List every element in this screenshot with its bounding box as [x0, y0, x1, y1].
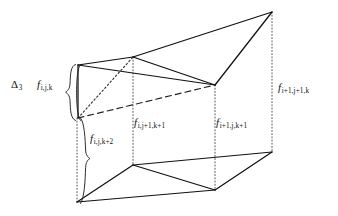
figure-container: Δ3 fi,j,k fi,j,k+2 fi,j+1,k+1 fi+1,j,k+1… — [0, 0, 338, 216]
label-f-iplus1-jplus1-k: fi+1,j+1,k — [278, 82, 309, 95]
edge-bottomright-bottominner — [215, 152, 272, 190]
edge-topleft-rightmid — [78, 65, 215, 85]
top-face-edges — [78, 12, 272, 85]
edge-hidden-leftlower-rightmid — [78, 85, 215, 118]
prism-diagram — [0, 0, 338, 216]
edge-topmid-rightmid — [133, 57, 215, 85]
dotted-vertical-guides — [77, 12, 272, 202]
edge-bottommid-bottominner — [133, 165, 215, 190]
edge-apex-rightmid — [215, 12, 272, 85]
label-f-iplus1-j-kplus1: fi+1,j,k+1 — [216, 117, 247, 130]
brace-fijk2-span — [81, 118, 91, 204]
label-delta-3: Δ3 — [11, 79, 22, 92]
label-f-i-jplus1-kplus1: fi,j+1,k+1 — [134, 117, 165, 130]
delta-subscript: 3 — [18, 84, 22, 92]
edge-topmid-apex — [133, 12, 272, 57]
f-subscript: i,j,k+2 — [93, 138, 113, 146]
brace-upper-path — [66, 65, 76, 121]
edge-bottomleft-bottominner — [77, 190, 215, 202]
edge-bottommid-bottomright — [133, 152, 272, 165]
f-subscript: i,j+1,k+1 — [137, 122, 165, 130]
bottom-face-edges — [77, 152, 272, 202]
label-f-i-j-k: fi,j,k — [37, 79, 52, 92]
edge-topleft-topmid — [78, 57, 133, 65]
f-subscript: i,j,k — [40, 84, 52, 92]
f-subscript: i+1,j,k+1 — [219, 122, 247, 130]
hidden-edges-dashed — [78, 85, 215, 118]
brace-lower-path — [81, 118, 91, 204]
f-subscript: i+1,j+1,k — [281, 87, 309, 95]
label-f-i-j-kplus2: fi,j,k+2 — [90, 133, 113, 146]
